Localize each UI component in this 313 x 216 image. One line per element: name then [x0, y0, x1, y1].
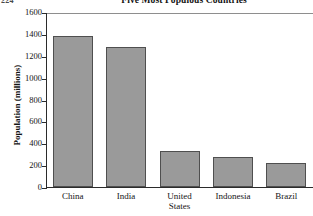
page-number-fragment: 224 — [1, 0, 14, 5]
y-axis-tick: 1000 — [46, 79, 47, 80]
y-axis-tick: 1200 — [46, 57, 47, 58]
x-axis-label-line: Brazil — [246, 191, 313, 201]
x-axis-label: Brazil — [246, 191, 313, 201]
y-axis-tick-label: 1600 — [8, 7, 42, 17]
y-axis-tick-label: 1200 — [8, 51, 42, 61]
y-axis-tick-mark — [42, 101, 47, 102]
y-axis-tick-label: 1400 — [8, 29, 42, 39]
y-axis-tick: 800 — [46, 101, 47, 102]
bar — [266, 163, 306, 187]
y-axis-tick: 600 — [46, 122, 47, 123]
y-axis-tick-mark — [42, 188, 47, 189]
x-axis-label-line: States — [140, 201, 220, 211]
plot-area: 02004006008001000120014001600 ChinaIndia… — [46, 13, 313, 188]
x-axis-line — [46, 187, 313, 188]
y-axis-tick-label: 800 — [8, 95, 42, 105]
bar — [213, 157, 253, 187]
y-axis-tick-mark — [42, 57, 47, 58]
y-axis-tick: 0 — [46, 188, 47, 189]
chart-figure: 224 Five Most Populous Countries Populat… — [0, 0, 313, 216]
y-axis-tick: 200 — [46, 166, 47, 167]
axis-top-line — [46, 13, 313, 14]
bar — [53, 36, 93, 187]
y-axis-tick-label: 600 — [8, 116, 42, 126]
chart-title: Five Most Populous Countries — [55, 0, 313, 5]
y-axis-tick: 1600 — [46, 13, 47, 14]
bar — [106, 47, 146, 187]
y-axis-tick-mark — [42, 79, 47, 80]
y-axis-tick-mark — [42, 13, 47, 14]
y-axis-tick: 1400 — [46, 35, 47, 36]
y-axis-tick-label: 400 — [8, 138, 42, 148]
y-axis-tick: 400 — [46, 144, 47, 145]
y-axis-tick-mark — [42, 144, 47, 145]
y-axis-tick-label: 1000 — [8, 73, 42, 83]
y-axis-tick-mark — [42, 122, 47, 123]
y-axis-tick-mark — [42, 166, 47, 167]
y-axis-tick-mark — [42, 35, 47, 36]
y-axis-tick-label: 200 — [8, 160, 42, 170]
bar — [160, 151, 200, 187]
